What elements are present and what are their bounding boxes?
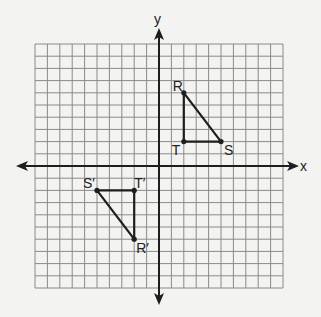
vertex-point	[218, 139, 223, 144]
y-axis-label: y	[154, 11, 161, 27]
vertex-label: S′	[83, 175, 95, 191]
vertex-label: S	[224, 142, 233, 158]
triangle-R'S'T': R′S′T′	[83, 175, 149, 256]
x-axis-label: x	[300, 158, 307, 174]
triangle-RST: RST	[172, 78, 234, 158]
vertex-label: R′	[136, 240, 149, 256]
coordinate-plane: x y RSTR′S′T′	[0, 0, 321, 317]
vertex-label: R	[173, 78, 183, 94]
vertex-label: T′	[134, 175, 146, 191]
vertex-point	[181, 139, 186, 144]
vertex-label: T	[172, 142, 181, 158]
vertex-point	[94, 188, 99, 193]
